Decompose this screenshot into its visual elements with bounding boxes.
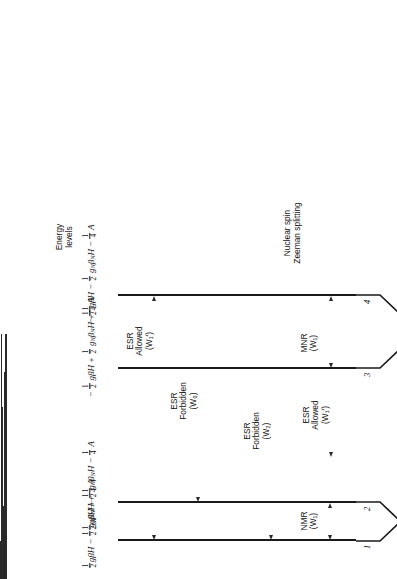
arrow-head-mnr-w1-left xyxy=(329,363,333,368)
transition-rate: (W₂) xyxy=(261,423,271,440)
axis-label-energy-levels: Energylevels xyxy=(55,207,74,267)
transition-label-esr-allowed-w1p: ESR Allowed (W₁′) xyxy=(302,389,330,441)
axis-label-nuclear-spin: Nuclear spinZeeman splitting xyxy=(283,190,302,276)
figure-canvas: NMR (W₁) ESR Forbidden (W₂) ESR Allowed … xyxy=(0,0,397,579)
transition-rate: (W₁) xyxy=(308,335,318,351)
transition-rate: (W₁) xyxy=(308,513,318,529)
level-number-1: 1 xyxy=(362,545,372,549)
arrow-head-nmr-w1-left xyxy=(328,535,332,540)
transition-label-mnr-w1: MNR (W₁) xyxy=(300,323,319,363)
figure-page: NMR (W₁) ESR Forbidden (W₂) ESR Allowed … xyxy=(0,0,397,579)
transition-label-esr-forbidden-w0: ESR Forbidden (W₀) xyxy=(170,373,198,429)
arrow-head-nmr-w1-right xyxy=(328,503,332,508)
transition-label-esr-forbidden-w2: ESR Forbidden (W₂) xyxy=(243,403,271,459)
energy-expression-4: − 12 gβH − 12 gNβNH − 14 A xyxy=(82,224,98,324)
arrow-head-esr-allowed-w1p2-right xyxy=(152,296,156,301)
transition-rate: (W₁′) xyxy=(144,332,154,350)
arrow-head-esr-allowed-w1p-left xyxy=(329,452,333,457)
arrow-head-mnr-w1-right xyxy=(329,296,333,301)
transition-label-nmr-w1: NMR (W₁) xyxy=(300,503,319,539)
level-number-3: 3 xyxy=(362,373,372,377)
level-number-2: 2 xyxy=(362,507,372,511)
arrow-head-esr-forbidden-w0-left xyxy=(196,497,200,502)
splitting-tree xyxy=(0,0,397,579)
transition-rate: (W₀) xyxy=(188,393,198,410)
energy-expression-2: 12gβH + 12 gNβNH − 14 A xyxy=(82,441,98,531)
arrow-head-esr-forbidden-w2-left xyxy=(269,535,273,540)
arrow-head-esr-allowed-w1p2-left xyxy=(152,535,156,540)
level-number-4: 4 xyxy=(362,300,372,304)
transition-label-esr-allowed-w1p2: ESR Allowed (W₁′) xyxy=(126,315,154,367)
transition-rate: (W₁′) xyxy=(320,406,330,424)
